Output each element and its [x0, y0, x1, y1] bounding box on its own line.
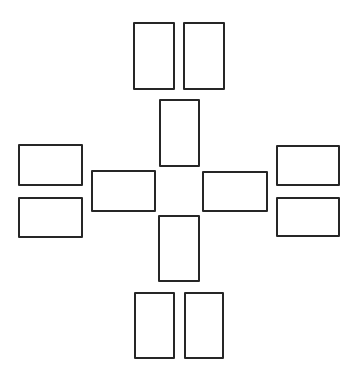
card-bottom-right: [184, 292, 224, 359]
card-center-right: [202, 171, 268, 212]
card-right-upper: [276, 145, 340, 186]
card-layout-diagram: [0, 0, 358, 378]
card-right-lower: [276, 197, 340, 237]
card-center-left: [91, 170, 156, 212]
card-center-bottom: [158, 215, 200, 282]
card-top-left: [133, 22, 175, 90]
card-center-top: [159, 99, 200, 167]
card-left-upper: [18, 144, 83, 186]
card-bottom-left: [134, 292, 175, 359]
card-top-right: [183, 22, 225, 90]
card-left-lower: [18, 197, 83, 238]
